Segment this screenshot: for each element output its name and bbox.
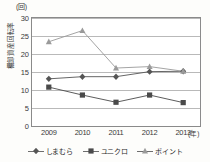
legend-symbol bbox=[88, 148, 94, 154]
data-point-marker bbox=[33, 148, 39, 154]
line-chart: (回) 棚卸資産回転率 302520151050 200920102011201… bbox=[0, 0, 210, 162]
legend-label: ユニクロ bbox=[101, 146, 128, 156]
data-series-layer bbox=[32, 18, 200, 126]
plot-area bbox=[31, 17, 201, 127]
legend-item[interactable]: ポイント bbox=[137, 146, 182, 156]
data-point-marker bbox=[79, 27, 85, 33]
y-tick-label: 25 bbox=[11, 33, 29, 40]
x-axis-unit-label: (年) bbox=[188, 128, 199, 138]
data-point-marker bbox=[46, 85, 51, 90]
x-tick-label: 2010 bbox=[65, 128, 99, 137]
legend-item[interactable]: しまむら bbox=[28, 146, 73, 156]
legend-item[interactable]: ユニクロ bbox=[83, 146, 128, 156]
data-point-marker bbox=[181, 100, 186, 105]
y-tick-label: 0 bbox=[11, 123, 29, 130]
data-point-marker bbox=[88, 148, 93, 153]
legend-label: ポイント bbox=[155, 146, 182, 156]
y-tick-label: 15 bbox=[11, 69, 29, 76]
legend-marker-square-icon bbox=[83, 147, 99, 156]
chart-legend: しまむらユニクロポイント bbox=[0, 144, 210, 158]
legend-label: しまむら bbox=[46, 146, 73, 156]
y-tick-label: 20 bbox=[11, 51, 29, 58]
data-point-marker bbox=[147, 92, 152, 97]
legend-symbol bbox=[33, 148, 39, 154]
y-tick-label: 10 bbox=[11, 87, 29, 94]
data-point-marker bbox=[79, 73, 85, 79]
data-point-marker bbox=[80, 92, 85, 97]
y-tick-label: 5 bbox=[11, 105, 29, 112]
x-tick-label: 2012 bbox=[133, 128, 167, 137]
data-point-marker bbox=[113, 100, 118, 105]
data-point-marker bbox=[147, 63, 153, 69]
legend-symbol bbox=[142, 148, 148, 154]
x-tick-label: 2011 bbox=[99, 128, 133, 137]
data-point-marker bbox=[142, 148, 148, 153]
y-tick-label: 30 bbox=[11, 15, 29, 22]
data-point-marker bbox=[46, 76, 52, 82]
data-point-marker bbox=[113, 73, 119, 79]
data-point-marker bbox=[147, 68, 153, 74]
legend-marker-diamond-icon bbox=[28, 147, 44, 156]
x-axis-tick-labels: 20092010201120122013 bbox=[31, 128, 201, 140]
x-tick-label: 2009 bbox=[32, 128, 66, 137]
legend-marker-triangle-icon bbox=[137, 147, 153, 156]
y-axis-tick-labels: 302520151050 bbox=[11, 0, 29, 162]
